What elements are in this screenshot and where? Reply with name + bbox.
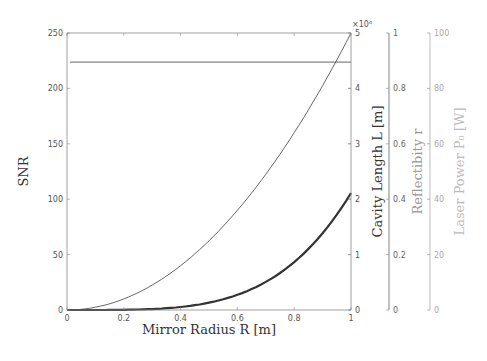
axes: 00.20.40.60.8105010015020025001234500.20… bbox=[48, 29, 450, 323]
y-tick-label-snr: 150 bbox=[48, 140, 63, 149]
y-tick-label-laser_power: 80 bbox=[434, 84, 444, 93]
y-tick-label-laser_power: 60 bbox=[434, 140, 444, 149]
y-tick-label-reflectivity: 0.2 bbox=[393, 251, 406, 260]
y-axis-label-laser-power: Laser Power P₀ [W] bbox=[452, 108, 467, 236]
y-tick-label-laser_power: 40 bbox=[434, 195, 444, 204]
plot-area bbox=[67, 33, 351, 310]
cavity-length-multiplier: ×10⁶ bbox=[352, 20, 372, 29]
y-tick-label-cavity_length: 3 bbox=[355, 140, 360, 149]
y-tick-label-laser_power: 20 bbox=[434, 251, 444, 260]
y-tick-label-reflectivity: 0 bbox=[393, 306, 398, 315]
y-tick-label-reflectivity: 0.8 bbox=[393, 84, 406, 93]
x-axis-label: Mirror Radius R [m] bbox=[142, 322, 276, 337]
y-tick-label-reflectivity: 0.4 bbox=[393, 195, 406, 204]
y-tick-label-reflectivity: 0.6 bbox=[393, 140, 406, 149]
x-tick-label: 1 bbox=[348, 314, 353, 323]
chart: 00.20.40.60.8105010015020025001234500.20… bbox=[0, 0, 487, 361]
y-tick-label-snr: 100 bbox=[48, 195, 63, 204]
y-tick-label-cavity_length: 2 bbox=[355, 195, 360, 204]
y-tick-label-cavity_length: 1 bbox=[355, 251, 360, 260]
y-axis-label-reflectivity: Reflectibity r bbox=[410, 128, 425, 215]
y-tick-label-laser_power: 0 bbox=[434, 306, 439, 315]
y-tick-label-reflectivity: 1 bbox=[393, 29, 398, 38]
series-cavity-length-l bbox=[67, 33, 351, 310]
y-axis-label-snr: SNR bbox=[16, 155, 31, 186]
y-tick-label-snr: 250 bbox=[48, 29, 63, 38]
y-tick-label-snr: 50 bbox=[53, 251, 63, 260]
y-axis-label-cavity-length: Cavity Length L [m] bbox=[370, 106, 385, 238]
y-tick-label-cavity_length: 0 bbox=[355, 306, 360, 315]
x-tick-label: 0.2 bbox=[117, 314, 130, 323]
x-tick-label: 0.8 bbox=[288, 314, 301, 323]
y-tick-label-laser_power: 100 bbox=[434, 29, 449, 38]
x-tick-label: 0 bbox=[64, 314, 69, 323]
y-tick-label-snr: 200 bbox=[48, 84, 63, 93]
y-tick-label-snr: 0 bbox=[58, 306, 63, 315]
y-tick-label-cavity_length: 4 bbox=[355, 84, 360, 93]
series-snr bbox=[67, 193, 351, 310]
y-tick-label-cavity_length: 5 bbox=[355, 29, 360, 38]
